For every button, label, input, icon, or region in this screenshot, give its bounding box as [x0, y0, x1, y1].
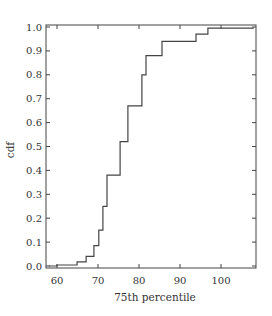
x-tick-label: 80	[133, 275, 146, 286]
x-tick-label: 60	[51, 275, 64, 286]
cdf-step-line	[49, 28, 254, 266]
x-tick-label: 90	[174, 275, 187, 286]
y-axis: 0.00.10.20.30.40.50.60.70.80.91.0	[26, 22, 256, 272]
cdf-step-chart: 0.00.10.20.30.40.50.60.70.80.91.0 607080…	[0, 0, 272, 316]
y-tick-label: 0.6	[26, 117, 42, 128]
x-tick-label: 70	[92, 275, 105, 286]
y-tick-label: 0.1	[26, 237, 42, 248]
y-tick-label: 0.8	[26, 69, 42, 80]
y-tick-label: 0.4	[26, 165, 42, 176]
y-tick-label: 0.9	[26, 45, 42, 56]
y-tick-label: 0.3	[26, 189, 42, 200]
y-tick-label: 0.0	[26, 261, 42, 272]
y-tick-label: 0.7	[26, 93, 42, 104]
y-tick-label: 1.0	[26, 22, 42, 33]
y-tick-label: 0.2	[26, 213, 42, 224]
plot-frame	[46, 25, 256, 268]
y-axis-label: cdf	[4, 141, 16, 159]
x-tick-label: 100	[211, 275, 230, 286]
x-axis-label: 75th percentile	[114, 291, 196, 303]
x-axis: 60708090100	[51, 25, 231, 286]
y-tick-label: 0.5	[26, 141, 42, 152]
